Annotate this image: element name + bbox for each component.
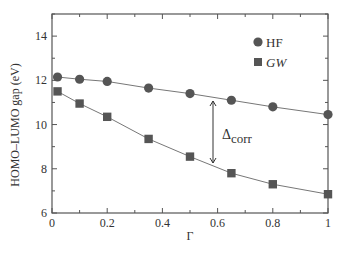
data-point-circle bbox=[75, 75, 84, 84]
data-point-circle bbox=[185, 89, 194, 98]
legend-marker-hf bbox=[253, 37, 262, 46]
y-tick-label: 8 bbox=[41, 162, 47, 176]
x-axis-label: Γ bbox=[187, 229, 194, 243]
plot-frame bbox=[52, 14, 328, 213]
data-point-circle bbox=[323, 110, 332, 119]
data-point-circle bbox=[53, 72, 62, 81]
x-tick-label: 0.6 bbox=[210, 216, 225, 230]
x-tick-label: 0.4 bbox=[155, 216, 170, 230]
axis-ticks bbox=[52, 14, 328, 213]
chart: 00.20.40.60.8168101214 HFGW Δcorr Γ HOMO… bbox=[0, 0, 351, 256]
series-line bbox=[58, 91, 328, 194]
y-tick-label: 10 bbox=[35, 118, 47, 132]
data-point-square bbox=[227, 169, 235, 177]
series-hf bbox=[53, 72, 333, 119]
data-point-circle bbox=[227, 96, 236, 105]
y-axis-label: HOMO–LUMO gap (eV) bbox=[8, 63, 22, 186]
x-tick-label: 0.2 bbox=[100, 216, 115, 230]
plot-border bbox=[52, 14, 328, 213]
legend-label-gw: GW bbox=[266, 55, 287, 70]
data-point-square bbox=[53, 87, 61, 95]
data-point-square bbox=[269, 180, 277, 188]
data-point-square bbox=[75, 99, 83, 107]
series-gw bbox=[53, 87, 332, 198]
tick-labels: 00.20.40.60.8168101214 bbox=[35, 29, 331, 230]
x-tick-label: 1 bbox=[325, 216, 331, 230]
legend-marker-gw bbox=[254, 58, 262, 66]
data-point-circle bbox=[268, 102, 277, 111]
legend-label-hf: HF bbox=[266, 35, 283, 50]
annotation-label: Δcorr bbox=[222, 127, 253, 146]
y-tick-label: 14 bbox=[35, 29, 47, 43]
y-tick-label: 6 bbox=[41, 206, 47, 220]
data-point-circle bbox=[103, 77, 112, 86]
data-point-square bbox=[144, 135, 152, 143]
data-point-square bbox=[324, 190, 332, 198]
delta-corr-annotation: Δcorr bbox=[210, 101, 253, 163]
x-tick-label: 0 bbox=[49, 216, 55, 230]
y-tick-label: 12 bbox=[35, 73, 47, 87]
data-point-circle bbox=[144, 83, 153, 92]
data-point-square bbox=[103, 113, 111, 121]
data-point-square bbox=[186, 152, 194, 160]
data-series bbox=[53, 72, 333, 198]
legend: HFGW bbox=[253, 35, 287, 70]
x-tick-label: 0.8 bbox=[265, 216, 280, 230]
